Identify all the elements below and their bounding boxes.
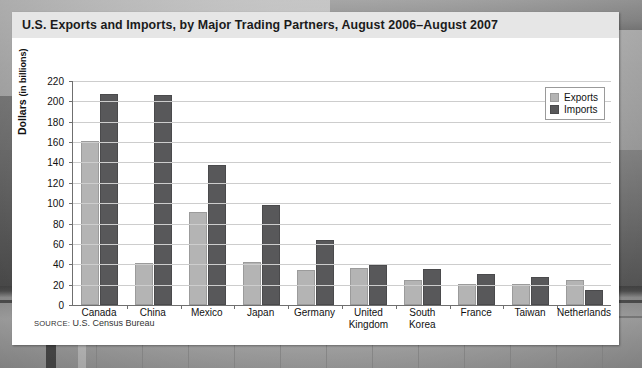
y-tickmark-80 [69, 224, 73, 225]
bar-group [73, 81, 127, 305]
x-axis-label-japan: Japan [234, 307, 288, 330]
bar-group [127, 81, 181, 305]
gridline-100 [73, 203, 611, 204]
x-axis-label-united-kingdom: United Kingdom [341, 307, 395, 330]
legend-item-exports: Exports [550, 92, 598, 103]
y-axis-tick-20: 20 [34, 279, 64, 290]
bar-exports-mexico [189, 212, 207, 305]
y-axis-tick-200: 200 [34, 96, 64, 107]
gridline-80 [73, 224, 611, 225]
y-axis-tick-labels: 220200180160140120100806040200 [34, 81, 64, 305]
bar-group [288, 81, 342, 305]
bar-imports-canada [100, 94, 118, 305]
gridline-40 [73, 264, 611, 265]
y-tickmark-220 [69, 81, 73, 82]
y-axis-title-main: Dollars [16, 99, 28, 135]
bar-imports-china [154, 95, 172, 305]
y-tickmark-200 [69, 101, 73, 102]
bar-group [396, 81, 450, 305]
y-tickmark-140 [69, 162, 73, 163]
gridline-180 [73, 122, 611, 123]
gridline-200 [73, 101, 611, 102]
y-tickmark-120 [69, 183, 73, 184]
gridline-160 [73, 142, 611, 143]
bar-exports-south-korea [404, 280, 422, 305]
gridline-20 [73, 285, 611, 286]
bar-exports-germany [297, 270, 315, 305]
y-axis-tick-100: 100 [34, 198, 64, 209]
y-tickmark-40 [69, 264, 73, 265]
gridline-220 [73, 81, 611, 82]
bar-exports-france [458, 284, 476, 305]
bar-group [342, 81, 396, 305]
y-axis-title-units: (in billions) [18, 48, 28, 96]
y-axis-tick-40: 40 [34, 259, 64, 270]
bar-imports-south-korea [423, 269, 441, 305]
bar-imports-germany [316, 240, 334, 305]
y-axis-tick-80: 80 [34, 218, 64, 229]
legend-item-imports: Imports [550, 104, 598, 115]
y-tickmark-160 [69, 142, 73, 143]
bar-group [181, 81, 235, 305]
x-axis-label-south-korea: South Korea [395, 307, 449, 330]
bar-groups [73, 81, 611, 305]
y-tickmark-180 [69, 122, 73, 123]
chart-title-bar: U.S. Exports and Imports, by Major Tradi… [12, 12, 619, 39]
legend-label-exports: Exports [564, 92, 598, 103]
bar-exports-taiwan [512, 284, 530, 305]
y-tickmark-100 [69, 203, 73, 204]
legend-swatch-imports-icon [550, 105, 559, 114]
y-tickmark-20 [69, 285, 73, 286]
x-axis-label-mexico: Mexico [180, 307, 234, 330]
legend-label-imports: Imports [564, 104, 597, 115]
y-tickmark-60 [69, 244, 73, 245]
bar-exports-japan [243, 262, 261, 305]
y-axis-tick-0: 0 [34, 300, 64, 311]
gridline-140 [73, 162, 611, 163]
bar-group [450, 81, 504, 305]
gridline-120 [73, 183, 611, 184]
y-tickmark-0 [69, 305, 73, 306]
y-axis-tick-60: 60 [34, 238, 64, 249]
bar-imports-france [477, 274, 495, 305]
y-axis-tick-120: 120 [34, 177, 64, 188]
legend-swatch-exports-icon [550, 93, 559, 102]
chart-title: U.S. Exports and Imports, by Major Tradi… [12, 18, 498, 32]
y-axis-tick-140: 140 [34, 157, 64, 168]
plot-area-wrapper: Dollars (in billions) 220200180160140120… [12, 39, 619, 309]
y-axis-tick-180: 180 [34, 116, 64, 127]
y-axis-title: Dollars (in billions) [16, 48, 28, 135]
x-axis-label-france: France [449, 307, 503, 330]
bar-exports-netherlands [566, 280, 584, 305]
bar-exports-united-kingdom [350, 268, 368, 305]
source-value: U.S. Census Bureau [73, 318, 155, 328]
gridline-60 [73, 244, 611, 245]
plot-area [72, 81, 611, 306]
bar-imports-taiwan [531, 277, 549, 306]
x-axis-label-taiwan: Taiwan [503, 307, 557, 330]
bar-imports-netherlands [585, 290, 603, 305]
bar-group [234, 81, 288, 305]
chart-legend: Exports Imports [545, 87, 605, 120]
source-label: SOURCE: [34, 319, 70, 328]
source-note: SOURCE: U.S. Census Bureau [34, 318, 155, 328]
bar-imports-japan [262, 205, 280, 305]
x-axis-label-germany: Germany [288, 307, 342, 330]
x-axis-label-netherlands: Netherlands [557, 307, 611, 330]
y-axis-tick-160: 160 [34, 137, 64, 148]
y-axis-tick-220: 220 [34, 76, 64, 87]
chart-card: U.S. Exports and Imports, by Major Tradi… [12, 12, 619, 345]
